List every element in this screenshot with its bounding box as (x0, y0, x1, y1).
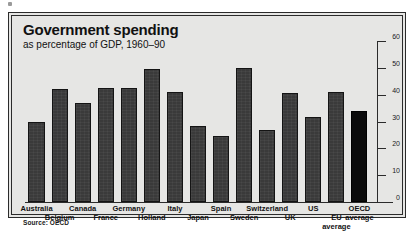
bar-slot (279, 41, 302, 202)
bar-slot (348, 41, 371, 202)
bar[interactable] (305, 117, 321, 202)
x-axis-labels: AustraliaBelgiumCanadaFranceGermanyHolla… (25, 204, 371, 230)
y-tick-label: 10 (386, 167, 400, 174)
bar[interactable] (28, 122, 44, 203)
bar[interactable] (282, 93, 298, 202)
bar-slot (233, 41, 256, 202)
plot-area (25, 41, 371, 202)
bar-slot (256, 41, 279, 202)
y-tick-label: 50 (386, 60, 400, 67)
bar[interactable] (98, 88, 114, 202)
bar[interactable] (144, 69, 160, 202)
y-tick (377, 148, 386, 149)
bar[interactable] (167, 92, 183, 202)
bar-slot (140, 41, 163, 202)
bar[interactable] (328, 92, 344, 202)
bar[interactable] (213, 136, 229, 202)
x-axis-label: average (329, 213, 389, 222)
y-tick (377, 202, 386, 203)
bar[interactable] (75, 103, 91, 202)
chart-title: Government spending (23, 21, 178, 38)
y-tick (377, 175, 386, 176)
bar-slot (71, 41, 94, 202)
bar-slot (302, 41, 325, 202)
bar-slot (117, 41, 140, 202)
y-tick (377, 95, 386, 96)
y-tick-label: 40 (386, 87, 400, 94)
bar[interactable] (190, 126, 206, 202)
bar[interactable] (236, 68, 252, 202)
bar-series (25, 41, 371, 202)
bar-slot (186, 41, 209, 202)
y-tick-label: 30 (386, 114, 400, 121)
chart-figure: Government spending as percentage of GDP… (8, 12, 406, 218)
bar[interactable] (351, 111, 367, 202)
y-tick (377, 41, 386, 42)
source-note: Source: OECD (23, 219, 69, 226)
y-tick-label: 20 (386, 140, 400, 147)
x-axis-label: average (306, 222, 366, 231)
bar[interactable] (52, 89, 68, 202)
y-tick-label: 0 (386, 194, 400, 201)
y-tick (377, 122, 386, 123)
bar-slot (210, 41, 233, 202)
x-axis-baseline (25, 202, 393, 203)
page-speck (8, 2, 12, 6)
bar[interactable] (121, 88, 137, 202)
x-axis-label: OECD (329, 204, 389, 213)
y-tick-label: 60 (386, 33, 400, 40)
bar-slot (325, 41, 348, 202)
bar-slot (25, 41, 48, 202)
y-tick (377, 68, 386, 69)
bar-slot (163, 41, 186, 202)
bar-slot (48, 41, 71, 202)
bar[interactable] (259, 130, 275, 202)
bar-slot (94, 41, 117, 202)
